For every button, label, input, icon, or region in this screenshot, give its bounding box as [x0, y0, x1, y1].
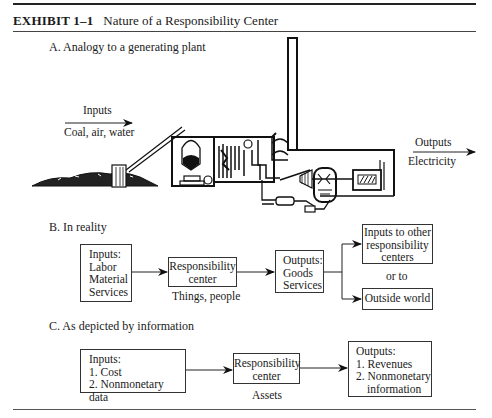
box-line: Outputs: — [356, 345, 431, 358]
info-inputs-box: Inputs: 1. Cost 2. Nonmonetary data — [80, 349, 186, 393]
box-line: 2. Nonmonetary — [356, 370, 431, 383]
plant-inputs-detail: Coal, air, water — [64, 126, 134, 138]
section-a-heading: A. Analogy to a generating plant — [49, 40, 206, 55]
reality-outputs-box: Outputs: Goods Services — [275, 250, 324, 293]
box-line: responsibility — [363, 239, 432, 252]
generating-plant-illustration — [32, 38, 394, 212]
box-line: Services — [89, 286, 131, 299]
box-line: Responsibility — [169, 260, 236, 273]
bottom-rule — [13, 409, 476, 410]
reality-center-caption: Things, people — [172, 290, 240, 302]
box-line: Material — [89, 273, 131, 286]
box-line: Inputs: — [89, 248, 131, 261]
box-line: Inputs: — [89, 353, 185, 366]
info-outputs-box: Outputs: 1. Revenues 2. Nonmonetary info… — [348, 341, 432, 397]
box-line: Goods — [283, 267, 323, 280]
info-center-box: Responsibility center — [233, 353, 300, 384]
box-line: information — [356, 383, 431, 396]
other-centers-box: Inputs to other responsibility centers — [362, 224, 433, 264]
box-line: Outside world — [363, 292, 432, 305]
box-line: Responsibility — [234, 357, 299, 370]
box-line: center — [169, 273, 236, 286]
or-to-label: or to — [386, 270, 407, 282]
box-line: Inputs to other — [363, 226, 432, 239]
reality-inputs-box: Inputs: Labor Material Services — [80, 244, 132, 302]
box-line: 2. Nonmonetary data — [89, 378, 185, 403]
box-line: Labor — [89, 261, 131, 274]
reality-center-box: Responsibility center — [168, 257, 237, 287]
box-line: center — [234, 370, 299, 383]
box-line: 1. Cost — [89, 366, 185, 379]
plant-outputs-label: Outputs — [415, 136, 451, 148]
plant-inputs-label: Inputs — [83, 104, 112, 116]
plant-outputs-detail: Electricity — [408, 155, 456, 167]
section-c-heading: C. As depicted by information — [49, 319, 194, 334]
outside-world-box: Outside world — [362, 288, 433, 310]
info-center-caption: Assets — [252, 389, 282, 401]
box-line: centers — [363, 251, 432, 264]
box-line: Outputs: — [283, 254, 323, 267]
section-b-heading: B. In reality — [49, 220, 107, 235]
box-line: Services — [283, 279, 323, 292]
box-line: 1. Revenues — [356, 358, 431, 371]
